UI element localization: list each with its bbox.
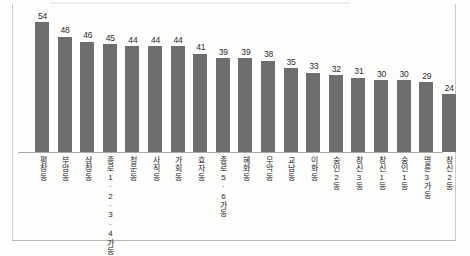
bar bbox=[306, 73, 320, 152]
bar-group: 35 bbox=[280, 8, 303, 152]
plot-area: 54484645444444413939383533323130302924 bbox=[20, 8, 450, 152]
category-label: 이화동 bbox=[302, 156, 325, 238]
category-label: 창신1동 bbox=[370, 156, 393, 238]
bar-value-label: 44 bbox=[167, 35, 190, 45]
category-label: 효자동 bbox=[189, 156, 212, 238]
bar-value-label: 32 bbox=[325, 64, 348, 74]
bar-group: 38 bbox=[257, 8, 280, 152]
category-label: 종로5·6가동 bbox=[212, 156, 235, 238]
bar-value-label: 39 bbox=[234, 47, 257, 57]
bar bbox=[284, 68, 298, 152]
category-label: 창신3동 bbox=[347, 156, 370, 238]
bar-value-label: 44 bbox=[121, 35, 144, 45]
bar-value-label: 29 bbox=[415, 71, 438, 81]
bar-group: 39 bbox=[212, 8, 235, 152]
bar-chart-figure: 54484645444444413939383533323130302924 평… bbox=[0, 0, 470, 256]
bar bbox=[148, 46, 162, 152]
x-axis-category-labels: 평창동부암동삼청동종로1·2·3·4가동청운동사직동가회동효자동종로5·6가동혜… bbox=[20, 156, 450, 240]
category-label: 종로1·2·3·4가동 bbox=[99, 156, 122, 238]
bar-value-label: 38 bbox=[257, 49, 280, 59]
bar-group: 32 bbox=[325, 8, 348, 152]
bar bbox=[125, 46, 139, 152]
bar-value-label: 41 bbox=[189, 42, 212, 52]
bar bbox=[238, 58, 252, 152]
bar-value-label: 39 bbox=[212, 47, 235, 57]
bar bbox=[261, 61, 275, 152]
bar-group: 31 bbox=[347, 8, 370, 152]
x-axis-line bbox=[18, 152, 443, 153]
bar-value-label: 45 bbox=[99, 33, 122, 43]
frame-bottom-border bbox=[12, 240, 456, 241]
bar-value-label: 31 bbox=[347, 66, 370, 76]
bar-group: 33 bbox=[302, 8, 325, 152]
category-label: 숭인1동 bbox=[393, 156, 416, 238]
bar-group: 30 bbox=[370, 8, 393, 152]
bar bbox=[35, 22, 49, 152]
bar bbox=[171, 46, 185, 152]
category-label: 명륜3가동 bbox=[415, 156, 438, 238]
bar-series: 54484645444444413939383533323130302924 bbox=[20, 8, 450, 152]
category-label: 숭인2동 bbox=[325, 156, 348, 238]
bar-value-label: 30 bbox=[393, 69, 416, 79]
bar bbox=[419, 82, 433, 152]
frame-left-border bbox=[12, 4, 13, 240]
frame-top-edge bbox=[50, 2, 350, 4]
category-label: 창신2동 bbox=[438, 156, 461, 238]
category-label: 교남동 bbox=[280, 156, 303, 238]
bar bbox=[193, 54, 207, 152]
category-label: 무악동 bbox=[257, 156, 280, 238]
bar-value-label: 24 bbox=[438, 83, 461, 93]
bar bbox=[442, 94, 456, 152]
category-label: 삼청동 bbox=[76, 156, 99, 238]
bar bbox=[351, 78, 365, 152]
bar-value-label: 35 bbox=[280, 57, 303, 67]
bar bbox=[397, 80, 411, 152]
bar-group: 44 bbox=[167, 8, 190, 152]
bar-value-label: 48 bbox=[54, 25, 77, 35]
bar-group: 44 bbox=[121, 8, 144, 152]
bar-value-label: 46 bbox=[76, 30, 99, 40]
bar-value-label: 54 bbox=[31, 11, 54, 21]
category-label: 혜화동 bbox=[234, 156, 257, 238]
bar-group: 41 bbox=[189, 8, 212, 152]
bar-value-label: 44 bbox=[144, 35, 167, 45]
bar-group: 46 bbox=[76, 8, 99, 152]
bar bbox=[374, 80, 388, 152]
bar-group: 30 bbox=[393, 8, 416, 152]
category-label: 평창동 bbox=[31, 156, 54, 238]
bar bbox=[216, 58, 230, 152]
bar bbox=[80, 42, 94, 152]
bar-group: 54 bbox=[31, 8, 54, 152]
bar-group: 44 bbox=[144, 8, 167, 152]
bar-group: 24 bbox=[438, 8, 461, 152]
bar bbox=[329, 75, 343, 152]
bar bbox=[103, 44, 117, 152]
category-label: 사직동 bbox=[144, 156, 167, 238]
bar-group: 39 bbox=[234, 8, 257, 152]
bar-group: 29 bbox=[415, 8, 438, 152]
category-label: 부암동 bbox=[54, 156, 77, 238]
bar-value-label: 33 bbox=[302, 61, 325, 71]
bar-group: 45 bbox=[99, 8, 122, 152]
bar-value-label: 30 bbox=[370, 69, 393, 79]
category-label: 가회동 bbox=[167, 156, 190, 238]
category-label: 청운동 bbox=[121, 156, 144, 238]
bar-group: 48 bbox=[54, 8, 77, 152]
bar bbox=[58, 37, 72, 152]
